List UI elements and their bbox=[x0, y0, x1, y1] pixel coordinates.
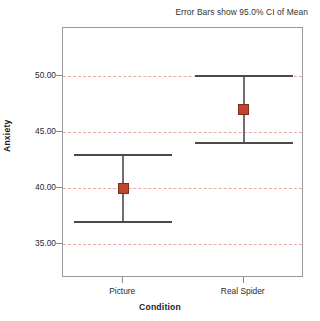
plot-area bbox=[62, 27, 303, 277]
error-bar-chart: Error Bars show 95.0% CI of Mean Anxiety… bbox=[0, 0, 320, 321]
x-axis-tick bbox=[122, 277, 123, 283]
y-axis-tick-label: 45.00 bbox=[10, 126, 56, 136]
x-axis-title: Condition bbox=[0, 302, 320, 312]
gridline bbox=[63, 188, 302, 189]
x-axis-tick-label: Picture bbox=[109, 286, 135, 296]
gridline bbox=[63, 132, 302, 133]
x-axis-tick-label: Real Spider bbox=[221, 286, 265, 296]
error-bar-caption: Error Bars show 95.0% CI of Mean bbox=[175, 7, 308, 17]
error-bar-cap-upper bbox=[195, 75, 293, 77]
y-axis-tick-label: 35.00 bbox=[10, 238, 56, 248]
error-bar-cap-upper bbox=[74, 154, 172, 156]
x-axis-tick bbox=[243, 277, 244, 283]
y-axis-tick-label: 50.00 bbox=[10, 70, 56, 80]
error-bar-cap-lower bbox=[195, 142, 293, 144]
gridline bbox=[63, 244, 302, 245]
mean-marker bbox=[238, 104, 249, 115]
y-axis-tick-label: 40.00 bbox=[10, 182, 56, 192]
error-bar-cap-lower bbox=[74, 221, 172, 223]
mean-marker bbox=[118, 183, 129, 194]
